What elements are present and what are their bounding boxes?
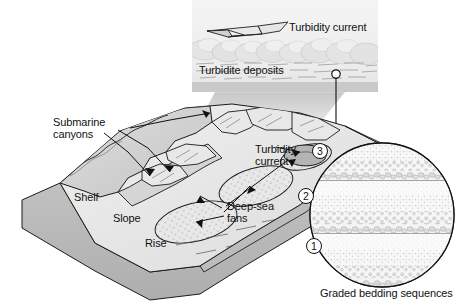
label-deep-sea-fans-line2: fans	[227, 212, 247, 225]
label-slope: Slope	[113, 212, 141, 225]
label-turbidity-current-line1: Turbidity	[255, 143, 296, 156]
label-turbidity-current-line2: current	[255, 155, 289, 168]
sequence-label-3: 3	[317, 145, 323, 158]
label-submarine-canyons-line2: canyons	[53, 128, 93, 141]
zoom-point-marker	[332, 70, 340, 78]
sequence-label-2: 2	[303, 190, 309, 203]
figure-root: Turbidity current Turbidite deposits Sub…	[0, 0, 463, 304]
label-submarine-canyons-line1: Submarine	[53, 116, 105, 129]
label-deep-sea-fans-line1: Deep-sea	[227, 200, 274, 213]
sequence-label-1: 1	[311, 240, 317, 253]
diagram-artwork	[0, 0, 463, 304]
magnifier-caption: Graded bedding sequences	[320, 287, 453, 300]
label-rise: Rise	[145, 237, 167, 250]
inset-turbidity-current-label: Turbidity current	[289, 21, 366, 34]
turbidity-current-inset-panel	[188, 0, 382, 92]
inset-turbidite-deposits-label: Turbidite deposits	[199, 64, 284, 77]
label-shelf: Shelf	[74, 191, 99, 204]
